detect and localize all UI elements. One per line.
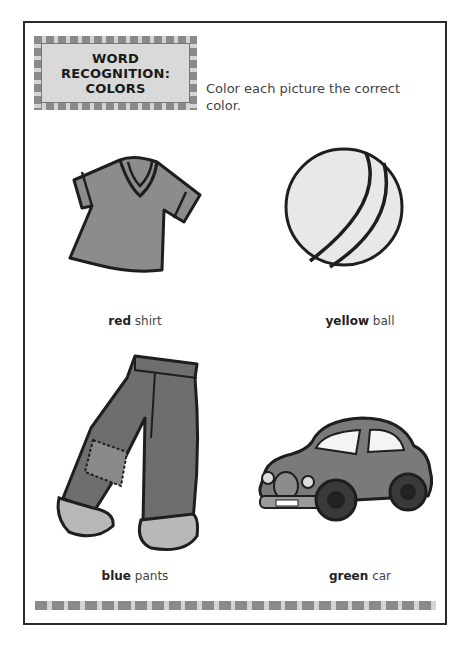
car-icon [252,412,442,527]
decorative-tile-strip [35,601,436,610]
caption-ball: yellow ball [280,314,440,328]
title-badge-inner: WORD RECOGNITION: COLORS [41,43,190,103]
color-word-red: red [108,314,131,328]
color-word-blue: blue [102,569,131,583]
title-line-2: RECOGNITION: [61,66,170,81]
title-line-3: COLORS [61,81,170,96]
ball-icon [280,143,410,273]
worksheet-title: WORD RECOGNITION: COLORS [61,51,170,96]
ball-picture[interactable] [280,143,410,277]
object-word-ball: ball [373,314,395,328]
car-picture[interactable] [252,412,442,531]
title-badge: WORD RECOGNITION: COLORS [34,36,197,110]
object-word-car: car [372,569,391,583]
pants-icon [55,348,205,553]
pants-picture[interactable] [55,348,205,557]
object-word-pants: pants [135,569,169,583]
caption-pants: blue pants [55,569,215,583]
instructions-text: Color each picture the correct color. [206,80,426,114]
color-word-green: green [329,569,368,583]
object-word-shirt: shirt [135,314,162,328]
title-line-1: WORD [61,51,170,66]
shirt-icon [62,140,207,275]
shirt-picture[interactable] [62,140,207,279]
caption-car: green car [280,569,440,583]
color-word-yellow: yellow [326,314,370,328]
caption-shirt: red shirt [55,314,215,328]
